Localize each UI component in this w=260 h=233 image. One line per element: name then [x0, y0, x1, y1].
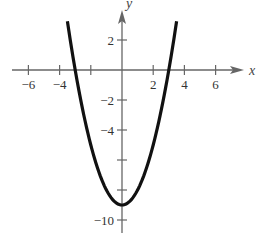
x-tick-label: −4 [53, 77, 67, 92]
y-tick-label: 2 [108, 33, 115, 48]
x-tick-label: 4 [181, 77, 188, 92]
parabola-chart: −6−42462−2−4−10 x y [0, 0, 260, 233]
x-tick-label: 2 [150, 77, 157, 92]
y-tick-label: −4 [100, 123, 114, 138]
axes [12, 10, 244, 233]
x-tick-label: 6 [212, 77, 219, 92]
y-tick-label: −10 [94, 213, 114, 228]
y-axis-label: y [124, 0, 133, 11]
x-axis-label: x [248, 63, 256, 78]
y-tick-label: −2 [100, 93, 114, 108]
x-tick-label: −6 [21, 77, 35, 92]
